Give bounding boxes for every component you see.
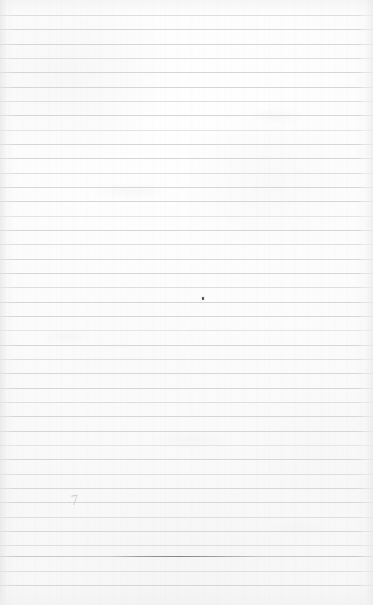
rule-line <box>7 72 358 73</box>
ink-speck-mark <box>202 297 204 300</box>
rule-line <box>7 259 358 260</box>
rule-line <box>7 187 358 188</box>
rule-line <box>7 373 358 374</box>
rule-line <box>7 545 358 546</box>
rule-line <box>7 585 358 586</box>
rule-line <box>7 316 358 317</box>
pencil-handwriting-mark: 7 <box>70 493 79 509</box>
rule-line <box>7 273 358 274</box>
rule-line <box>7 345 358 346</box>
rule-line <box>7 87 358 88</box>
rule-line <box>7 201 358 202</box>
dark-rule-segment <box>110 556 262 557</box>
rule-line <box>7 445 358 446</box>
rule-line <box>7 173 358 174</box>
rule-line <box>7 101 358 102</box>
rule-line <box>7 58 358 59</box>
rule-line <box>7 474 358 475</box>
rule-line <box>7 287 358 288</box>
rule-line <box>7 158 358 159</box>
rule-line <box>7 330 358 331</box>
rule-line <box>7 388 358 389</box>
rule-line <box>7 359 358 360</box>
rule-line <box>7 29 358 30</box>
rule-line <box>7 244 358 245</box>
rule-line <box>7 15 358 16</box>
rule-line <box>7 431 358 432</box>
rule-line <box>7 115 358 116</box>
rule-line <box>7 488 358 489</box>
lined-paper-page: 7 Blank ruled notebook page <box>0 0 373 605</box>
rule-line <box>7 571 358 572</box>
rule-line <box>7 216 358 217</box>
rule-line <box>7 416 358 417</box>
rule-line <box>7 502 358 503</box>
rule-line <box>7 459 358 460</box>
rule-line <box>7 402 358 403</box>
ruled-lines-layer <box>0 0 373 605</box>
rule-line <box>7 230 358 231</box>
rule-line <box>7 531 358 532</box>
rule-line <box>7 517 358 518</box>
rule-line <box>7 302 358 303</box>
rule-line <box>7 130 358 131</box>
rule-line <box>7 44 358 45</box>
rule-line <box>7 144 358 145</box>
